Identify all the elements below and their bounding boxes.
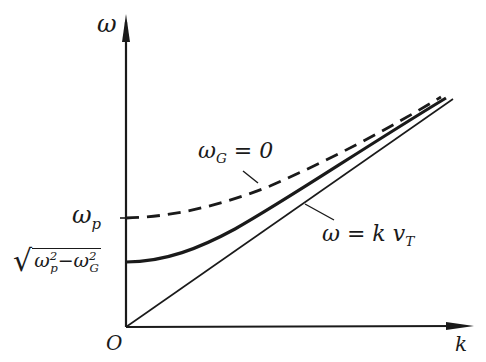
annot-eq-zero: = 0 (227, 138, 273, 163)
asymptote-lhs: ω = k v (322, 221, 405, 246)
y-axis-label: ω (97, 12, 117, 36)
sqrt-radicand: ω2p−ω2G (32, 248, 101, 275)
origin-label: O (106, 333, 122, 353)
x-axis-arrow-icon (446, 322, 474, 330)
y-axis-arrow-icon (122, 14, 130, 42)
sqrt-w2: ω (74, 249, 90, 271)
annot-omega: ω (198, 138, 216, 163)
asymptote-annotation: ω = k vT (322, 223, 414, 249)
sqrt-minus: − (58, 249, 74, 271)
leader-light-line (305, 204, 334, 220)
sqrt-intercept-label: √ω2p−ω2G (13, 246, 101, 276)
dispersion-diagram (0, 0, 486, 362)
sqrt-w2-sub: G (90, 261, 99, 275)
sqrt-icon: √ (13, 243, 32, 278)
sqrt-w1-sub: p (50, 261, 58, 275)
leader-omega-g0 (243, 171, 258, 183)
x-axis-label: k (455, 334, 467, 354)
omega-p-label: ωp (72, 203, 101, 232)
omega-p-sub: p (92, 215, 102, 233)
asymptote-sub: T (405, 233, 414, 249)
x-axis (126, 326, 462, 327)
omega-p-base: ω (72, 201, 92, 229)
dashed-curve-annotation: ωG = 0 (198, 140, 273, 166)
sqrt-w1: ω (34, 249, 50, 271)
annot-omega-sub: G (216, 150, 227, 166)
